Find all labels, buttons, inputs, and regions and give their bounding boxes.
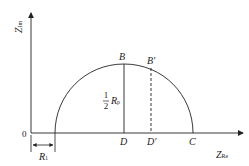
point-bprime-label: B′ <box>147 56 155 66</box>
point-c-label: C <box>189 137 196 147</box>
rp-label: Rp <box>111 96 120 106</box>
half-denominator: 2 <box>103 102 109 111</box>
half-numerator: 1 <box>103 91 109 100</box>
origin-label: 0 <box>22 130 27 139</box>
x-axis-label: ZRe <box>216 150 228 160</box>
point-b-label: B <box>119 52 125 62</box>
point-d-label: D <box>120 137 127 147</box>
y-axis-label: ZIm <box>14 21 24 33</box>
point-dprime-label: D′ <box>147 137 156 147</box>
r1-label: R1 <box>39 152 48 162</box>
